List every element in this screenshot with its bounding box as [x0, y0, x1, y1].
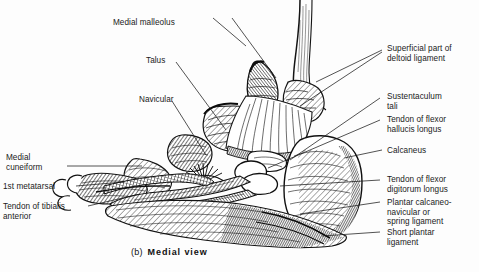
caption-index: (b): [131, 247, 143, 257]
label-superficial-deltoid: Superficial part of deltoid ligament: [387, 44, 452, 63]
label-tendon-flexor-hallucis-longus: Tendon of flexor hallucis longus: [387, 115, 446, 134]
anatomy-figure: Medial malleolus Talus Navicular Medial …: [0, 0, 479, 272]
label-sustentaculum-tali: Sustentaculum tali: [387, 92, 442, 111]
label-short-plantar-ligament: Short plantar ligament: [387, 228, 435, 247]
leader-deltoid-b: [300, 52, 382, 106]
figure-caption: (b)Medial view: [131, 247, 208, 257]
leader-deltoid-a: [316, 50, 382, 82]
label-first-metatarsal: 1st metatarsal: [3, 182, 55, 192]
label-navicular: Navicular: [139, 95, 174, 105]
label-talus: Talus: [146, 56, 165, 66]
label-medial-malleolus: Medial malleolus: [113, 18, 175, 28]
label-medial-cuneiform: Medial cuneiform: [6, 153, 42, 172]
leader-medial-malleolus-a: [213, 18, 246, 46]
label-plantar-calcaneonavicular: Plantar calcaneo- navicular or spring li…: [387, 198, 452, 227]
navicular-bone: [168, 135, 213, 172]
label-tendon-flexor-digitorum-longus: Tendon of flexor digitorum longus: [387, 175, 448, 194]
caption-text: Medial view: [143, 247, 208, 257]
label-calcaneus: Calcaneus: [387, 146, 426, 156]
label-tendon-tibialis-anterior: Tendon of tibialis anterior: [3, 202, 65, 221]
